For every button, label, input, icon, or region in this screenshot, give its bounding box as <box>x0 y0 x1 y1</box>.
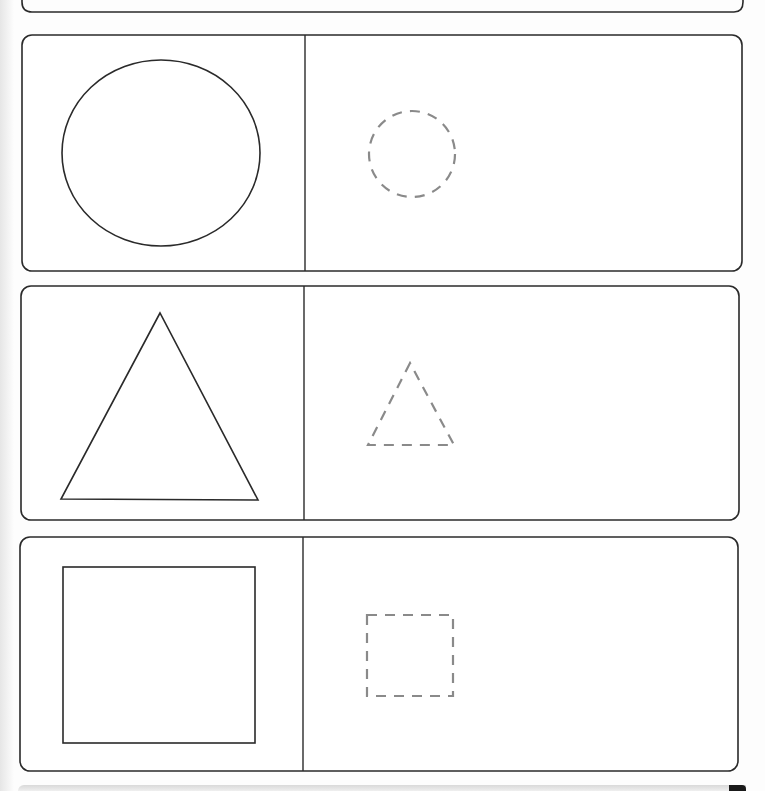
worksheet-drawing <box>0 0 765 791</box>
next-panel-top-edge <box>18 785 746 791</box>
next-panel-corner <box>729 785 746 791</box>
panel-frame <box>20 537 738 771</box>
row-circle <box>22 35 742 271</box>
panel-frame <box>22 35 742 271</box>
worksheet-page <box>0 0 765 791</box>
previous-panel-bottom <box>22 0 743 12</box>
row-triangle <box>21 286 739 520</box>
panel-frame <box>21 286 739 520</box>
row-square <box>20 537 738 771</box>
